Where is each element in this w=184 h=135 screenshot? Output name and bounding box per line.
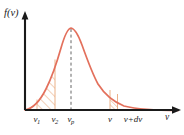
tick-label-v2: v2 [51,115,58,124]
tick-label-v-plus-dv: v+dv [124,115,143,124]
tick-label-v: v [108,115,112,124]
maxwell-distribution-figure: f(v) v v1 v2 vp v v+dv [0,0,184,135]
tick-label-vp: vp [67,115,74,124]
x-axis-label: v [165,113,169,123]
y-axis [22,11,29,110]
tick-v2-subscript: 2 [55,118,58,125]
tick-v1-subscript: 1 [37,118,40,125]
plot-canvas [0,0,184,135]
tick-vp-subscript: p [71,118,74,125]
y-axis-label: f(v) [4,8,19,19]
tick-label-v1: v1 [33,115,40,124]
shaded-region-v1-v2 [25,28,178,111]
